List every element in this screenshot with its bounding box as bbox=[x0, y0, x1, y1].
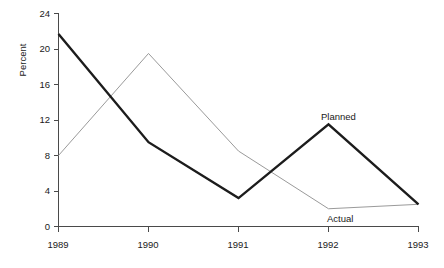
y-axis-tick-labels: 24 20 16 12 8 4 0 bbox=[39, 8, 50, 232]
x-axis-tick-labels: 1989 1990 1991 1992 1993 bbox=[47, 239, 428, 250]
series-line-actual bbox=[59, 53, 419, 208]
x-axis-ticks bbox=[59, 227, 419, 233]
chart-container: Percent 24 20 16 12 8 4 0 bbox=[0, 0, 444, 268]
x-tick-label-1992: 1992 bbox=[317, 239, 338, 250]
y-tick-label-24: 24 bbox=[39, 8, 50, 19]
x-tick-label-1991: 1991 bbox=[227, 239, 248, 250]
x-tick-label-1990: 1990 bbox=[137, 239, 158, 250]
y-tick-label-8: 8 bbox=[45, 150, 50, 161]
y-axis-ticks bbox=[54, 14, 59, 227]
series-line-planned bbox=[59, 34, 419, 204]
y-tick-label-0: 0 bbox=[45, 221, 50, 232]
line-chart: Percent 24 20 16 12 8 4 0 bbox=[0, 0, 444, 268]
series-label-planned: Planned bbox=[321, 111, 356, 122]
y-axis-title: Percent bbox=[17, 43, 28, 76]
x-tick-label-1989: 1989 bbox=[47, 239, 68, 250]
series-label-actual: Actual bbox=[327, 213, 353, 224]
y-tick-label-12: 12 bbox=[39, 114, 50, 125]
x-tick-label-1993: 1993 bbox=[407, 239, 428, 250]
y-tick-label-16: 16 bbox=[39, 79, 50, 90]
y-tick-label-4: 4 bbox=[45, 185, 50, 196]
y-tick-label-20: 20 bbox=[39, 43, 50, 54]
